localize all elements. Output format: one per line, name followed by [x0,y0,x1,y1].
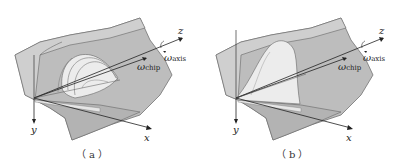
z-axis-label-b: z [379,26,384,36]
omega-axis-label-a: ωaxis [164,53,186,63]
caption-a: （a） [76,146,111,161]
chip-diagram-b [196,0,393,168]
omega-symbol: ω [363,52,371,63]
chip-diagram-a [0,0,196,168]
caption-b: （b） [276,146,311,161]
omega-axis-subscript: axis [172,55,186,63]
x-axis-label-a: x [144,133,150,143]
omega-chip-label-b: ωchip [338,62,361,72]
omega-chip-subscript: chip [145,64,160,72]
y-axis-label-a: y [31,125,37,135]
omega-symbol: ω [137,61,145,72]
omega-axis-label-b: ωaxis [363,53,385,63]
y-axis-label-b: y [233,125,239,135]
omega-axis-subscript: axis [371,55,385,63]
x-axis-label-b: x [346,133,352,143]
omega-chip-label-a: ωchip [137,62,160,72]
panel-b: z ωaxis ωchip y x （b） [196,0,392,168]
z-axis-label-a: z [178,26,183,36]
omega-symbol: ω [338,61,346,72]
panel-a: z ωaxis ωchip y x （a） [0,0,196,168]
omega-chip-subscript: chip [346,64,361,72]
omega-symbol: ω [164,52,172,63]
